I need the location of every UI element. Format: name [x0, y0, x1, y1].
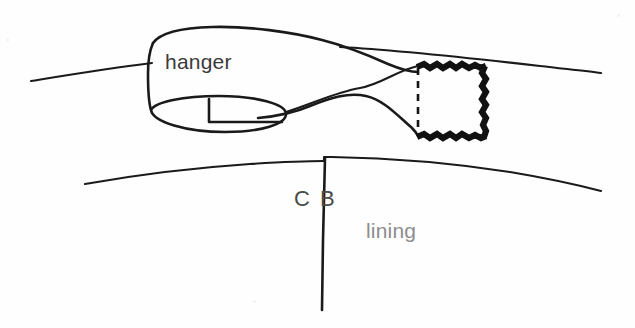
hanger-strip-fold-line: [286, 66, 418, 112]
hanger-strip-bottom-edge: [258, 95, 418, 136]
centre-back-label-b: B: [320, 186, 335, 212]
hanger-loop-opening-ellipse: [151, 96, 286, 132]
stitched-patch-right-stitch-edge: [482, 66, 486, 137]
centre-back-label-c: C: [294, 186, 310, 212]
upper-garment-edge-left: [31, 63, 152, 81]
lining-edge-left: [85, 161, 324, 184]
diagram-page: hanger C B lining: [0, 0, 635, 328]
hanger-label: hanger: [165, 50, 232, 74]
stitched-patch-top-stitch-edge: [417, 64, 486, 68]
lining-label: lining: [366, 219, 416, 243]
diagram-canvas: [0, 0, 635, 328]
hanger-strip-left-edge: [148, 43, 153, 110]
centre-back-line: [322, 158, 325, 310]
stitched-patch-bottom-stitch-edge: [417, 134, 486, 138]
lining-edge-right: [332, 157, 601, 191]
